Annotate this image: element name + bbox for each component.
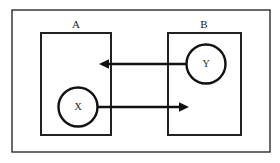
group-label-b: B (200, 18, 207, 30)
diagram-canvas: A B X Y (0, 0, 280, 163)
node-label-y: Y (202, 58, 209, 69)
node-label-x: X (74, 101, 82, 112)
group-label-a: A (72, 18, 80, 30)
outer-frame (12, 10, 270, 152)
diagram-svg: A B X Y (0, 0, 280, 163)
